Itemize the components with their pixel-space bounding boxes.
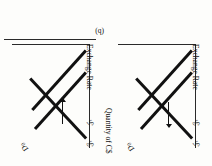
y-axis-title-b: Exchange Rate — [85, 44, 94, 90]
x-axis-b — [12, 44, 90, 45]
curve-label-d0-a: D0 — [124, 141, 136, 153]
plot-area-b: S0 S1 D0 — [12, 44, 90, 148]
y-axis-title-a: Exchange Rate — [191, 44, 200, 90]
curve-label-s1-a: S1 — [191, 139, 202, 150]
caption-rule-b — [4, 39, 96, 40]
supply-shift-arrow-b — [62, 102, 63, 124]
figure-panel-b: S0 S1 D0 (b) Exchange Rate — [0, 0, 106, 166]
figure-panel-a: S1 S0 D0 Exchange Rate Quantity of C$ — [106, 0, 212, 166]
panel-tag-b: (b) — [95, 27, 104, 36]
demand-curve-b — [29, 78, 87, 140]
curve-label-d0-b: D0 — [18, 141, 30, 153]
x-axis-a — [118, 44, 196, 45]
curve-label-s0-b: S0 — [85, 139, 96, 150]
curve-label-s1-b: S1 — [85, 118, 96, 129]
plot-area-a: S1 S0 D0 — [118, 44, 196, 148]
curve-label-s0-a: S0 — [191, 118, 202, 129]
demand-curve-a — [135, 78, 193, 140]
scanned-figure: S1 S0 D0 Exchange Rate Quantity of C$ — [0, 0, 212, 166]
supply-shift-arrow-a — [168, 102, 169, 124]
